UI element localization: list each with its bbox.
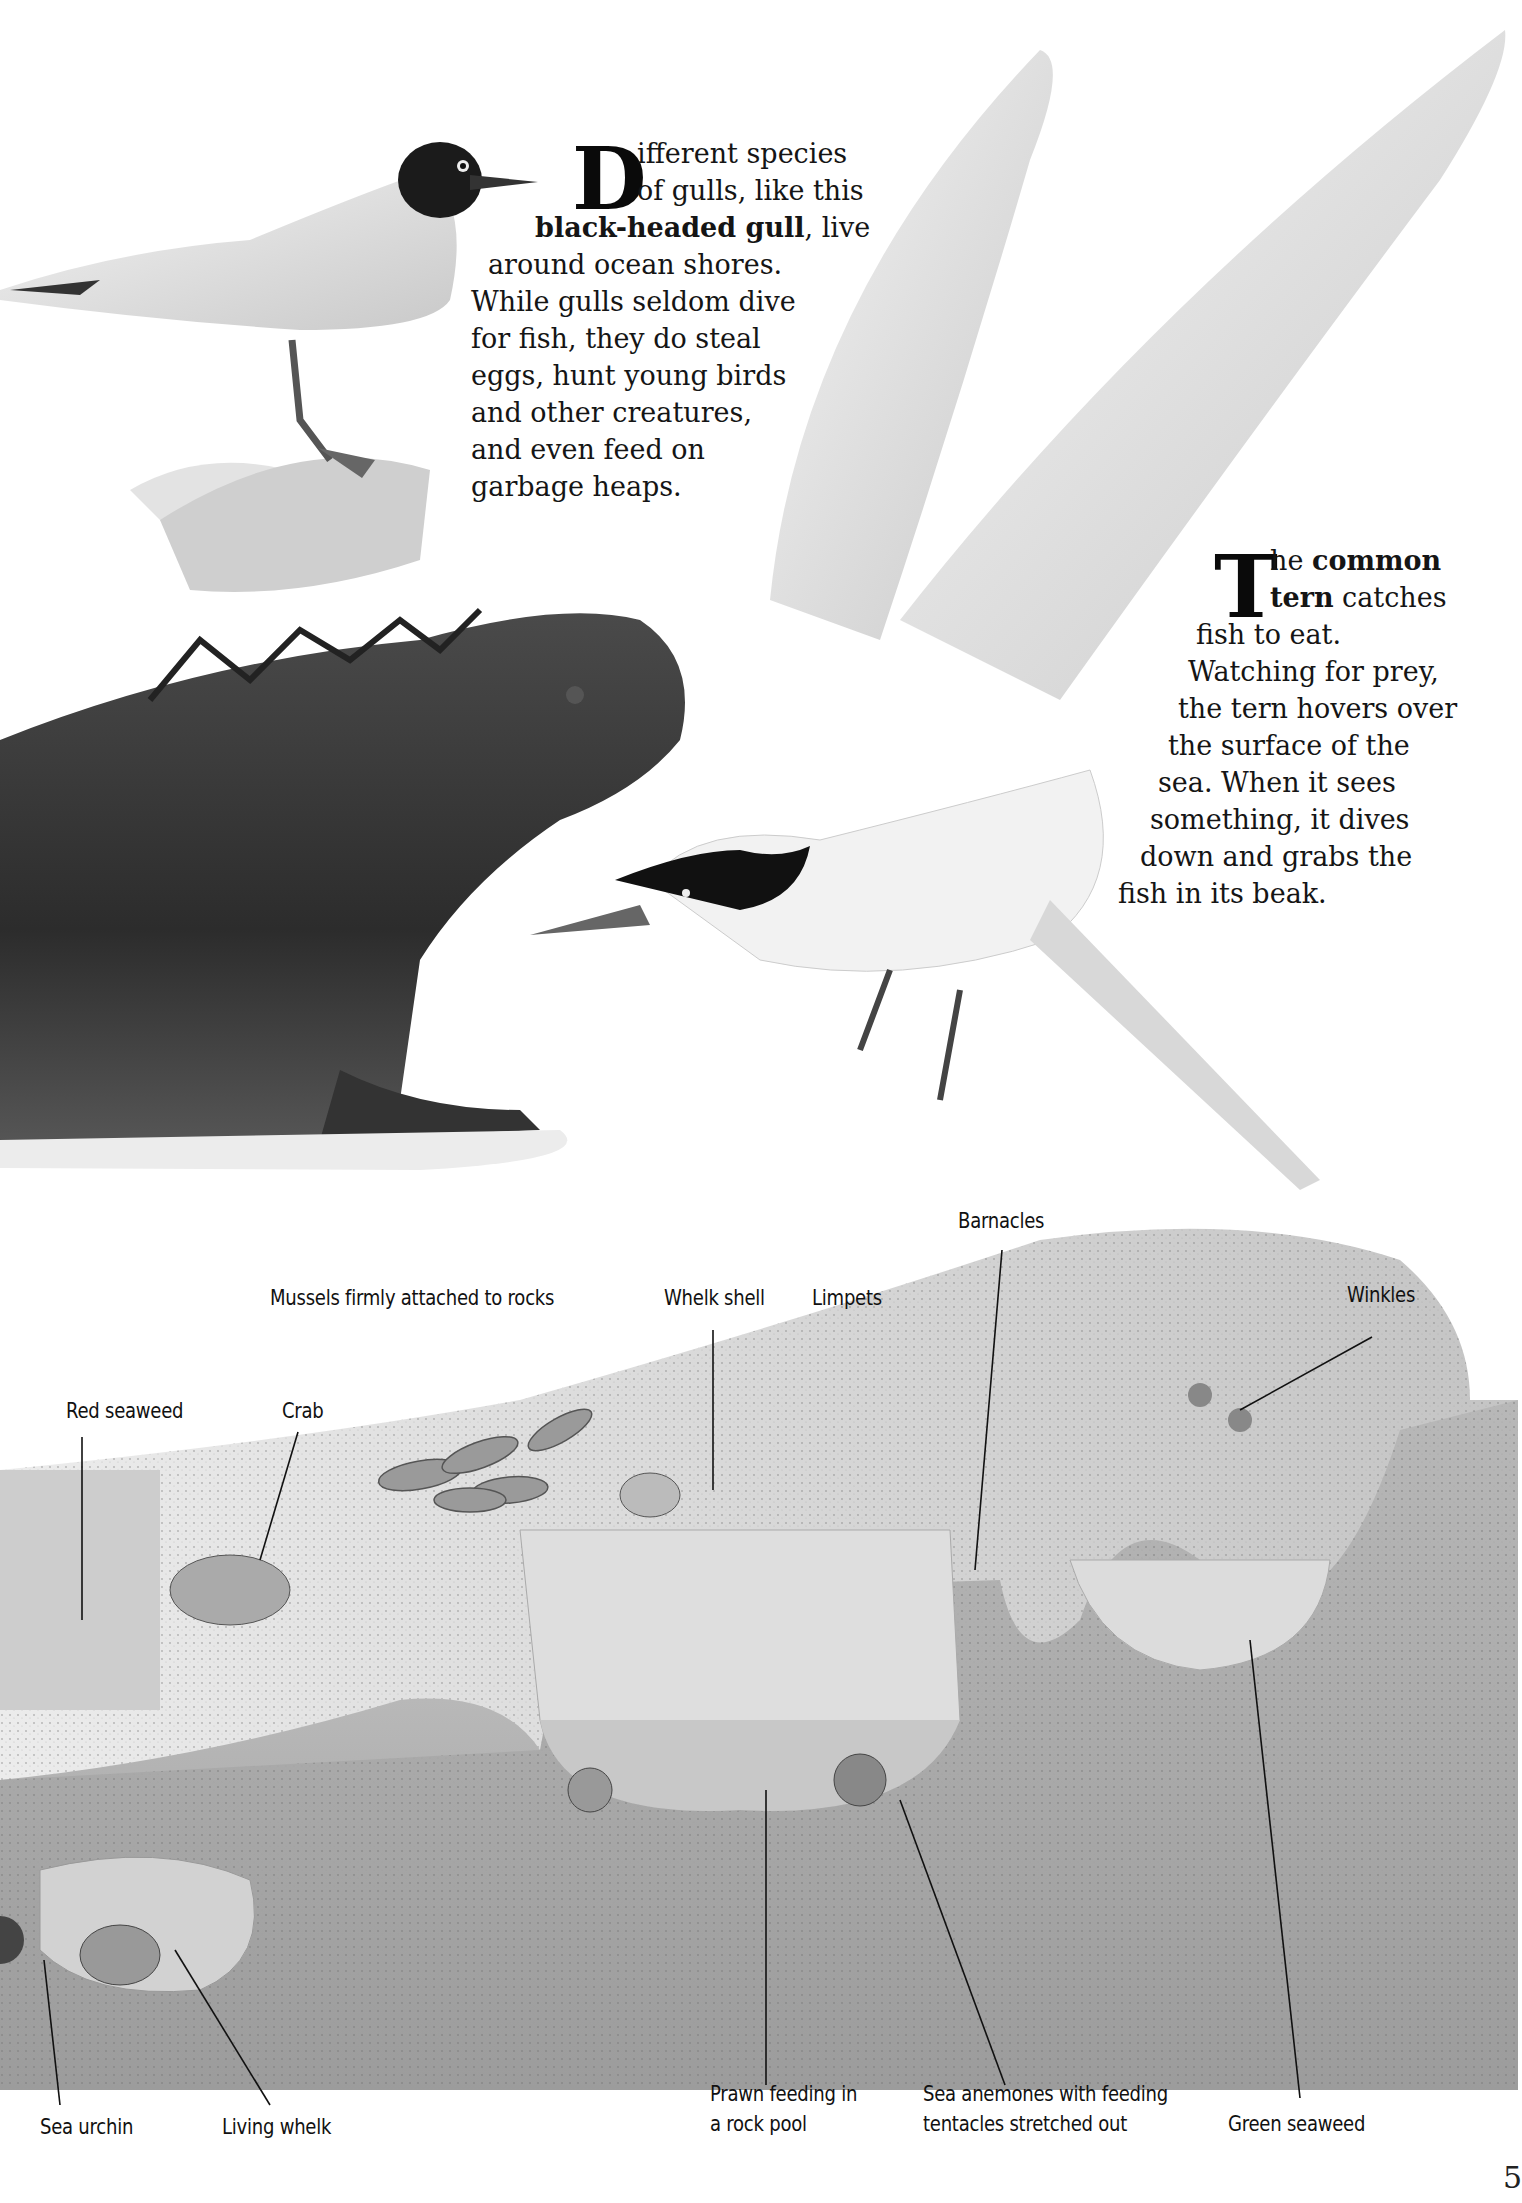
page-number: 5 <box>1503 2160 1522 2195</box>
tern-line-1: he common <box>1270 542 1441 579</box>
gull-line-3: black-headed gull, live <box>535 209 870 246</box>
common-term: common <box>1312 545 1441 576</box>
gull-line-8: and other creatures, <box>471 394 752 431</box>
tern-line-5: the tern hovers over <box>1178 690 1457 727</box>
gull-line-4: around ocean shores. <box>488 246 782 283</box>
tern-line-7: sea. When it sees <box>1158 764 1396 801</box>
tern-line-4: Watching for prey, <box>1188 653 1439 690</box>
black-headed-gull-illustration <box>0 142 538 592</box>
label-winkles: Winkles <box>1347 1281 1415 1308</box>
tern-line-3: fish to eat. <box>1196 616 1341 653</box>
label-green-seaweed: Green seaweed <box>1228 2110 1365 2137</box>
label-barnacles: Barnacles <box>958 1207 1044 1234</box>
label-sea-urchin: Sea urchin <box>40 2113 133 2140</box>
label-crab: Crab <box>282 1397 324 1424</box>
tern-term: tern <box>1270 582 1334 613</box>
gull-line-9: and even feed on <box>471 431 705 468</box>
label-prawn-line1: Prawn feeding in <box>710 2080 857 2107</box>
gull-dropcap: D <box>572 144 647 214</box>
label-prawn-line2: a rock pool <box>710 2110 807 2137</box>
tern-line-8: something, it dives <box>1150 801 1409 838</box>
gull-line-7: eggs, hunt young birds <box>471 357 786 394</box>
gull-line-1: ifferent species <box>637 135 847 172</box>
label-anemones-line1: Sea anemones with feeding <box>923 2080 1168 2107</box>
label-anemones-line2: tentacles stretched out <box>923 2110 1127 2137</box>
gull-line-5: While gulls seldom dive <box>471 283 796 320</box>
label-whelk-shell: Whelk shell <box>664 1284 765 1311</box>
black-headed-gull-term: black-headed gull <box>535 212 805 243</box>
label-living-whelk: Living whelk <box>222 2113 331 2140</box>
gull-line-10: garbage heaps. <box>471 468 682 505</box>
gull-line-2: of gulls, like this <box>637 172 864 209</box>
tern-line-10: fish in its beak. <box>1118 875 1327 912</box>
tern-line-2: tern catches <box>1270 579 1447 616</box>
marine-iguana-illustration <box>0 610 685 1170</box>
tern-line-9: down and grabs the <box>1140 838 1412 875</box>
label-limpets: Limpets <box>812 1284 882 1311</box>
tern-line-6: the surface of the <box>1168 727 1410 764</box>
tern-dropcap: T <box>1214 552 1278 622</box>
label-red-seaweed: Red seaweed <box>66 1397 183 1424</box>
label-mussels: Mussels firmly attached to rocks <box>270 1284 554 1311</box>
rocky-shore-diagram <box>0 1229 1518 2090</box>
gull-line-6: for fish, they do steal <box>471 320 761 357</box>
